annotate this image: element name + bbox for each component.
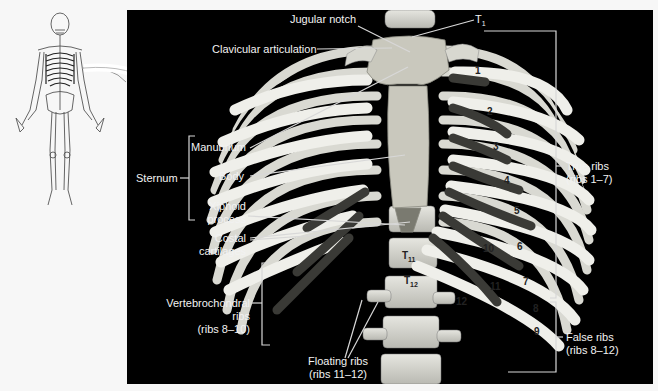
rib-number-10: 10 <box>483 243 494 254</box>
label-costal-cartilages: Costal cartilages <box>186 232 246 258</box>
rib-number-6: 6 <box>517 241 523 252</box>
label-false-ribs: False ribs (ribs 8–12) <box>566 331 619 357</box>
label-vertebrochondral-line1: Vertebrochondral <box>152 297 250 310</box>
label-vertebrochondral-line3: (ribs 8–10) <box>152 323 250 336</box>
label-floating-ribs: Floating ribs (ribs 11–12) <box>300 355 376 381</box>
label-floating-line1: Floating ribs <box>300 355 376 368</box>
vertebra-t12: T12 <box>404 275 418 288</box>
rib-number-9: 9 <box>534 326 540 337</box>
vertebra-t11-sub: 11 <box>408 256 415 263</box>
label-body: Body <box>219 170 244 183</box>
label-costal-line1: Costal <box>186 232 246 245</box>
label-t1-main: T <box>475 13 482 25</box>
rib-number-7: 7 <box>523 276 529 287</box>
rib-number-3: 3 <box>493 141 499 152</box>
rib-number-5: 5 <box>514 205 520 216</box>
vertebra-t11: T11 <box>402 250 416 263</box>
label-t1: T1 <box>475 13 486 30</box>
rib-number-1: 1 <box>475 65 481 76</box>
label-floating-line2: (ribs 11–12) <box>300 368 376 381</box>
label-manubrium: Manubrium <box>191 141 246 154</box>
label-true-ribs: True ribs (ribs 1–7) <box>566 160 612 186</box>
vertebra-t12-sub: 12 <box>410 281 418 288</box>
rib-number-11: 11 <box>490 281 501 292</box>
label-true-ribs-line2: (ribs 1–7) <box>566 173 612 186</box>
label-xiphoid-process: Xiphoid process <box>204 200 246 226</box>
label-t1-sub: 1 <box>482 20 486 27</box>
rib-number-12: 12 <box>456 296 467 307</box>
label-sternum: Sternum <box>136 172 178 185</box>
label-true-ribs-line1: True ribs <box>566 160 612 173</box>
leader-lines <box>0 0 658 391</box>
label-costal-line2: cartilages <box>186 245 246 258</box>
label-false-ribs-line1: False ribs <box>566 331 619 344</box>
label-false-ribs-line2: (ribs 8–12) <box>566 344 619 357</box>
rib-number-2: 2 <box>487 106 493 117</box>
label-vertebrochondral-line2: ribs <box>152 310 250 323</box>
figure: Jugular notch T1 Clavicular articulation… <box>0 0 658 391</box>
label-jugular-notch: Jugular notch <box>290 13 356 26</box>
label-clavicular-articulation: Clavicular articulation <box>212 43 317 56</box>
label-xiphoid-line2: process <box>204 213 246 226</box>
label-xiphoid-line1: Xiphoid <box>204 200 246 213</box>
rib-number-8: 8 <box>533 303 539 314</box>
rib-number-4: 4 <box>504 175 510 186</box>
label-vertebrochondral-ribs: Vertebrochondral ribs (ribs 8–10) <box>152 297 250 336</box>
